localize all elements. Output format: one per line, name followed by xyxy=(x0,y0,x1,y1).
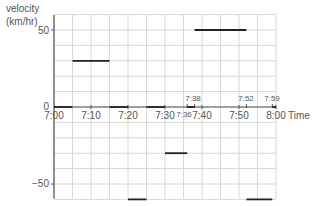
velocity-time-chart: velocity (km/hr) 50 0 −50 7:00 7:10 7:20… xyxy=(0,0,316,206)
x-tick-720: 7:20 xyxy=(118,110,138,121)
y-tick-neg50: −50 xyxy=(32,178,49,189)
y-axis-label-line2: (km/hr) xyxy=(6,16,38,27)
x-tick-750: 7:50 xyxy=(229,110,249,121)
x-tick-752: 7:52 xyxy=(238,94,254,103)
x-tick-700: 7:00 xyxy=(44,110,64,121)
x-tick-738: 7:38 xyxy=(185,94,201,103)
x-tick-740: 7:40 xyxy=(192,110,212,121)
x-tick-736: 7:36 xyxy=(176,110,192,119)
x-tick-800: 8:00 xyxy=(266,110,286,121)
x-tick-710: 7:10 xyxy=(81,110,101,121)
x-tick-759: 7:59 xyxy=(264,94,280,103)
y-axis-label-line1: velocity xyxy=(6,3,39,14)
y-tick-50: 50 xyxy=(38,25,50,36)
x-axis-label: Time xyxy=(288,110,310,121)
x-tick-730: 7:30 xyxy=(155,110,175,121)
